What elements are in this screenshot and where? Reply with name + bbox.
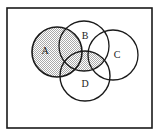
venn-diagram-canvas: A B C D	[0, 0, 158, 138]
set-label-a: A	[41, 45, 49, 56]
set-label-c: C	[114, 49, 121, 60]
set-label-d: D	[81, 78, 88, 89]
venn-diagram-figure: A B C D	[0, 0, 158, 138]
set-label-b: B	[82, 30, 89, 41]
